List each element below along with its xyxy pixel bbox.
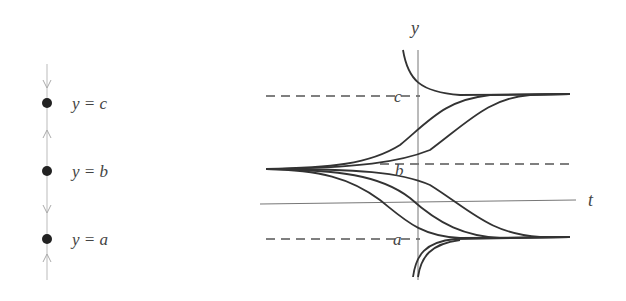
equilibrium-label-c: y = c <box>70 94 108 113</box>
equilibrium-label-b: y = b <box>70 162 108 181</box>
t-axis-label: t <box>588 190 594 210</box>
phase-line <box>42 64 52 280</box>
phase-diagram: y t c b a y = c y = b y = a <box>0 0 626 301</box>
equilibrium-label-a: y = a <box>70 230 108 249</box>
equilibrium-dot-c <box>42 98 52 108</box>
b-label: b <box>395 161 404 180</box>
equilibrium-dot-a <box>42 234 52 244</box>
y-axis-label: y <box>409 18 419 38</box>
c-label: c <box>394 87 402 106</box>
equilibrium-dot-b <box>42 166 52 176</box>
a-label: a <box>393 230 402 249</box>
